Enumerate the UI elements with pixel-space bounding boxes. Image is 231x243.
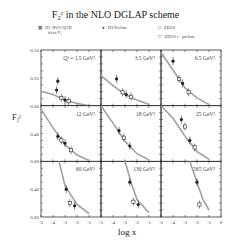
zeus-data-point (122, 136, 125, 139)
h1-data-point (180, 118, 183, 121)
panel-q2-label: 3.5 GeV² (135, 55, 156, 61)
x-tick-label: 0 (220, 220, 223, 225)
x-tick-label: -2 (135, 220, 140, 225)
h1-data-point (115, 77, 118, 80)
panel-q2-label: 25 GeV² (196, 111, 215, 117)
x-tick-label: -3 (183, 220, 188, 225)
y-tick-label: 0.40 (30, 132, 39, 137)
zeus-data-point (187, 91, 190, 94)
x-tick-label: -1 (87, 220, 92, 225)
h1-data-point (188, 139, 191, 142)
x-tick-label: -5 (99, 220, 104, 225)
y-tick-label: 0.25 (30, 76, 39, 81)
zeus-data-point (132, 200, 135, 203)
h1-data-point (195, 181, 198, 184)
qcd-fit-band (41, 109, 89, 161)
panel-q2-label: 18 GeV² (136, 111, 155, 117)
x-tick-label: -2 (75, 220, 80, 225)
h1-data-point (56, 135, 59, 138)
qcd-fit-band (101, 76, 149, 105)
x-tick-label: -2 (195, 220, 200, 225)
h1-data-point (137, 203, 140, 206)
x-axis-label: log x (118, 227, 136, 237)
panel-q2-label: 6.5 GeV² (195, 55, 216, 61)
h1-data-point (171, 60, 174, 63)
h1-data-point (128, 144, 131, 147)
panel-q2-label: 130 GeV² (133, 166, 155, 172)
zeus-data-point (60, 139, 63, 142)
y-tick-label: 0.00 (30, 215, 39, 220)
y-tick-label: 0.00 (30, 104, 39, 109)
zeus-data-point (69, 149, 72, 152)
panel-q2-label: Q² = 1.5 GeV² (63, 55, 95, 61)
x-tick-label: -1 (207, 220, 212, 225)
zeus-data-point (68, 201, 71, 204)
x-tick-label: -4 (111, 220, 116, 225)
panel-q2-label: 60 GeV² (76, 166, 95, 172)
zeus-data-point (177, 77, 180, 80)
h1-data-point (181, 82, 184, 85)
zeus-data-point (183, 125, 186, 128)
plot-area: Q² = 1.5 GeV²3.5 GeV²6.5 GeV²12 GeV²18 G… (0, 0, 231, 243)
zeus-data-point (198, 203, 201, 206)
x-tick-label: -5 (159, 220, 164, 225)
x-tick-label: -1 (147, 220, 152, 225)
x-tick-label: -3 (123, 220, 128, 225)
x-tick-label: -4 (171, 220, 176, 225)
panel-q2-label: 565 GeV² (193, 166, 215, 172)
zeus-data-point (60, 96, 63, 99)
zeus-data-point (121, 91, 124, 94)
x-tick-label: -5 (39, 220, 44, 225)
y-tick-label: 0.50 (30, 48, 39, 53)
h1-data-point (56, 80, 59, 83)
x-tick-label: -4 (51, 220, 56, 225)
zeus-data-point (67, 100, 70, 103)
y-tick-label: 0.40 (30, 187, 39, 192)
h1-data-point (73, 204, 76, 207)
h1-data-point (55, 88, 58, 91)
h1-data-point (63, 142, 66, 145)
h1-data-point (117, 129, 120, 132)
h1-data-point (125, 93, 128, 96)
h1-data-point (65, 188, 68, 191)
h1-data-point (63, 99, 66, 102)
x-tick-label: -3 (63, 220, 68, 225)
zeus-data-point (193, 146, 196, 149)
panel-q2-label: 12 GeV² (76, 111, 95, 117)
zeus-data-point (129, 95, 132, 98)
h1-data-point (128, 181, 131, 184)
y-tick-label: 0.00 (30, 159, 39, 164)
y-axis-label: F₂ᶜ (12, 113, 21, 122)
